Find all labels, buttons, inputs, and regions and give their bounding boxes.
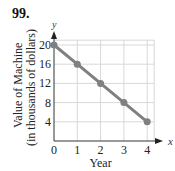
data-point [97,80,104,87]
y-tick-label: 4 [45,115,51,129]
y-axis-arrow-icon [51,31,57,39]
x-axis-label: Year [90,156,112,170]
y-tick-label: 12 [39,76,51,90]
x-tick-label: 0 [51,143,57,157]
data-point [51,42,58,49]
x-tick-label: 1 [74,143,80,157]
y-axis-label-line2: (in thousands of dollars) [24,29,39,146]
y-axis-name: y [51,19,57,30]
x-tick-label: 2 [98,143,104,157]
x-axis-arrow-icon [155,138,163,144]
y-tick-label: 20 [39,38,51,52]
x-axis-name: x [167,135,173,147]
data-point [74,61,81,68]
chart: 99. xy0123448121620Year Value of Machine… [0,0,175,171]
y-tick-label: 8 [45,96,51,110]
data-point [144,118,151,125]
x-tick-label: 3 [121,143,127,157]
y-tick-label: 16 [39,57,51,71]
data-point [120,99,127,106]
x-tick-label: 4 [144,143,150,157]
